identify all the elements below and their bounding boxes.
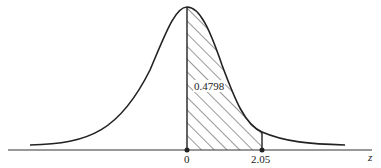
area-label: 0.4798	[193, 80, 225, 92]
axis-variable-label: z	[368, 151, 372, 163]
tick-label-z: 2.05	[251, 153, 270, 165]
z-point	[260, 148, 265, 153]
zero-point	[185, 148, 190, 153]
tick-label-zero: 0	[184, 153, 190, 165]
normal-curve-diagram	[0, 0, 381, 168]
